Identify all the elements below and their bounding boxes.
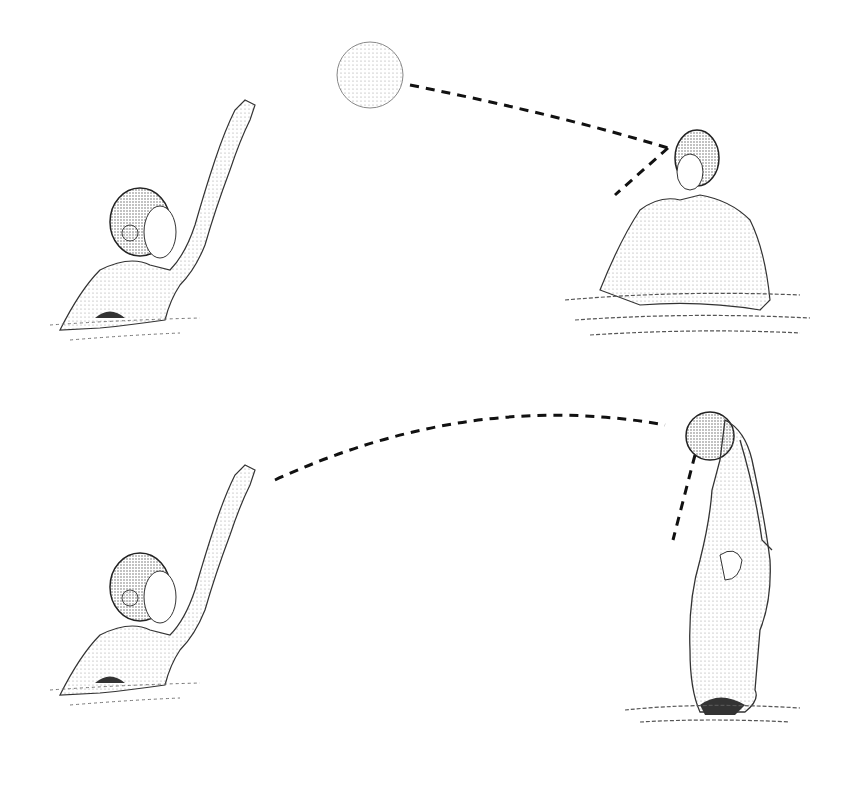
trajectory-top [410, 85, 668, 148]
trajectory-top-deflect [615, 148, 668, 195]
water-polo-illustration [0, 0, 864, 804]
top-panel [50, 42, 810, 340]
bottom-panel [50, 412, 800, 722]
receiver-bottom [625, 412, 800, 722]
trajectory-bottom [275, 415, 665, 480]
thrower-bottom [50, 465, 255, 705]
thrower-top [50, 100, 255, 340]
illustration-canvas [0, 0, 864, 804]
ball-top [337, 42, 403, 108]
receiver-top [565, 130, 810, 335]
trajectory-bottom-drop [673, 455, 695, 540]
